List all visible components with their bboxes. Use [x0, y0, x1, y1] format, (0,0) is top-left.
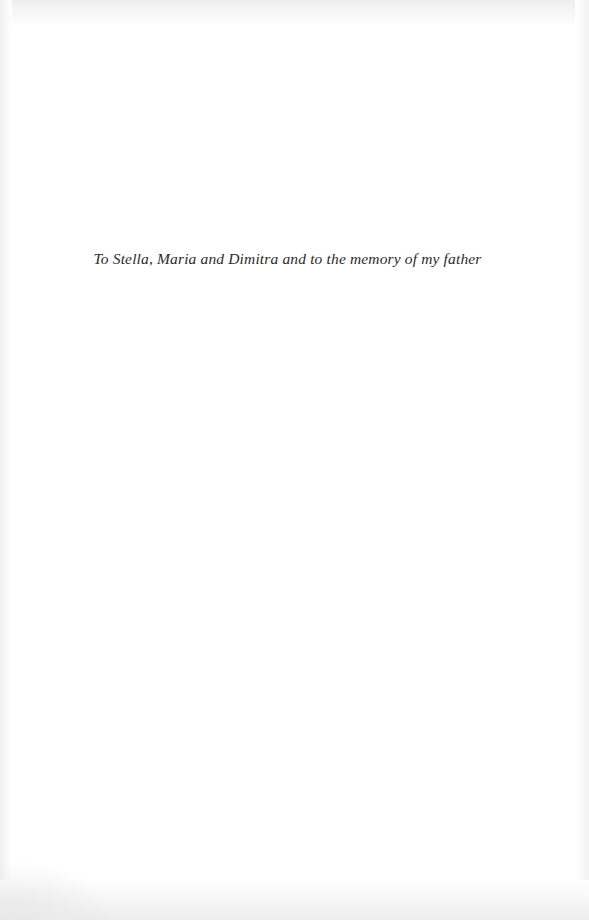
dedication-page: To Stella, Maria and Dimitra and to the …: [0, 0, 589, 920]
scan-edge-right: [575, 0, 589, 920]
dedication-text: To Stella, Maria and Dimitra and to the …: [93, 248, 481, 270]
scan-edge-left: [0, 0, 12, 920]
scan-corner-shadow: [0, 860, 120, 920]
scan-edge-top: [0, 0, 589, 26]
dedication-block: To Stella, Maria and Dimitra and to the …: [0, 248, 575, 270]
scan-edge-bottom: [0, 880, 589, 920]
